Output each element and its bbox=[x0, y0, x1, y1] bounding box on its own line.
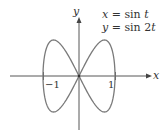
eq2-var: t bbox=[151, 21, 155, 34]
equation-y: y = sin 2t bbox=[102, 22, 156, 33]
x-axis-arrow-icon bbox=[146, 74, 152, 79]
eq1-rhs: = sin bbox=[108, 8, 144, 21]
equation-x: x = sin t bbox=[102, 9, 149, 20]
y-axis-label: y bbox=[73, 6, 79, 17]
eq1-var: t bbox=[144, 8, 148, 21]
eq2-rhs: = sin 2 bbox=[108, 21, 151, 34]
origin-point bbox=[78, 75, 81, 78]
tick-label-neg1: −1 bbox=[45, 80, 60, 90]
tick-label-pos1: 1 bbox=[108, 80, 114, 90]
x-axis-label: x bbox=[153, 70, 159, 81]
